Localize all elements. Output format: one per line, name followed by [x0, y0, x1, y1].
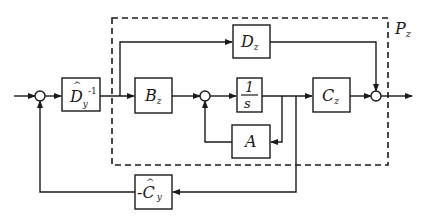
sum-junction-1	[35, 91, 45, 101]
wire-state-a	[271, 96, 282, 142]
hat-dy: ^	[73, 79, 81, 90]
hat-cy: ^	[146, 176, 154, 187]
wire-a-sum2	[205, 101, 232, 142]
subsystem-label: Pz	[394, 19, 412, 39]
sum-junction-2	[200, 91, 210, 101]
label-integrator-den: s	[244, 96, 251, 111]
block-diagram: Pz	[0, 0, 425, 223]
label-a: A	[243, 132, 257, 151]
sum-junction-3	[371, 91, 381, 101]
label-integrator-num: 1	[245, 79, 254, 95]
wire-cy-sum1	[40, 101, 135, 192]
